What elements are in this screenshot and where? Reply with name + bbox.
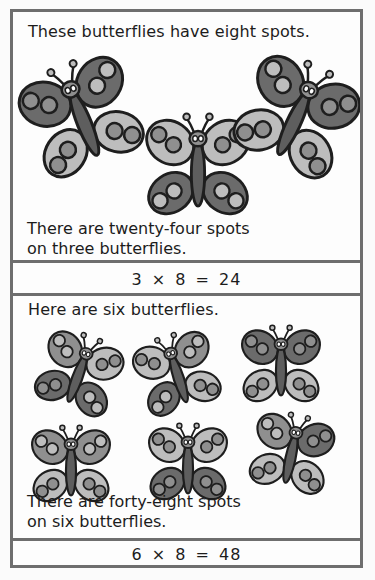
butterfly-body — [191, 142, 204, 207]
panel-three-butterflies: These butterflies have eight spots. Ther… — [13, 12, 360, 259]
panel-2-caption-line-2: on six butterflies. — [27, 512, 241, 532]
panel-2-caption: There are forty-eight spots on six butte… — [27, 492, 241, 532]
divider — [13, 538, 360, 541]
butterfly-spot — [236, 123, 255, 142]
divider — [13, 260, 360, 263]
butterfly — [13, 39, 162, 195]
equation-2: 6 × 8 = 48 — [13, 545, 360, 564]
panel-2-caption-line-1: There are forty-eight spots — [27, 492, 241, 512]
butterfly — [22, 319, 136, 429]
panel-1-caption: There are twenty-four spots on three but… — [27, 219, 250, 259]
butterfly-spot — [339, 94, 358, 113]
butterfly-wing — [293, 418, 340, 462]
butterfly-spot — [320, 98, 339, 117]
butterfly-body — [183, 444, 193, 493]
panel-1-caption-line-2: on three butterflies. — [27, 239, 250, 259]
worksheet-frame: These butterflies have eight spots. Ther… — [10, 9, 363, 568]
butterfly-body — [276, 346, 286, 395]
panel-six-butterflies: Here are six butterflies. There are fort… — [13, 296, 360, 539]
butterfly — [214, 37, 360, 196]
equation-1: 3 × 8 = 24 — [13, 270, 360, 289]
panel-1-caption-line-1: There are twenty-four spots — [27, 219, 250, 239]
butterfly — [235, 323, 326, 407]
butterfly-body — [66, 446, 76, 495]
butterfly — [121, 320, 234, 428]
butterfly — [238, 403, 345, 504]
butterfly-spot — [254, 120, 273, 139]
